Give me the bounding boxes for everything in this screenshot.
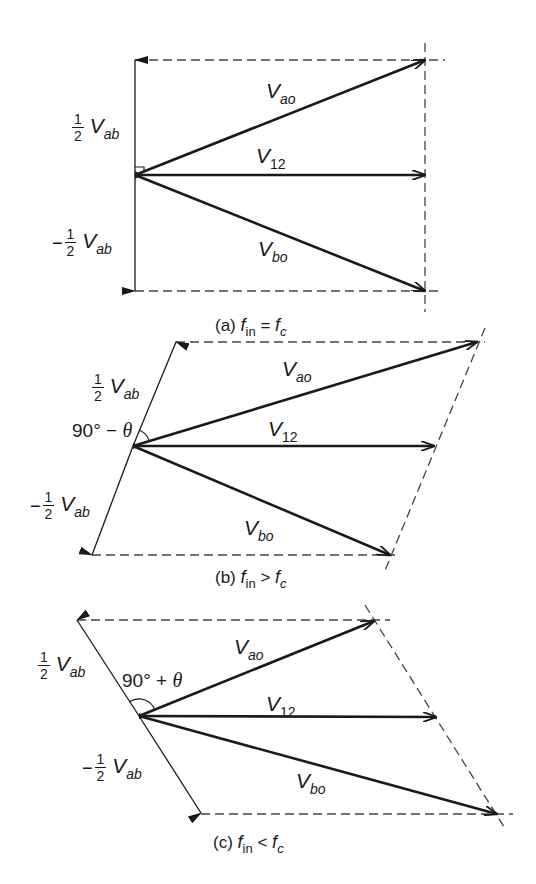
theta-symbol: θ xyxy=(172,669,182,691)
symbol-v: V xyxy=(266,692,280,715)
fraction-numerator: 1 xyxy=(72,112,84,128)
caption-rhs-sub: c xyxy=(280,324,287,339)
symbol-v: V xyxy=(90,114,104,137)
symbol-v: V xyxy=(256,144,270,167)
subscript: bo xyxy=(258,528,274,544)
fraction-denominator: 2 xyxy=(74,128,82,143)
fraction-denominator: 2 xyxy=(45,506,53,521)
half-vab-vector xyxy=(133,342,176,446)
fraction-numerator: 1 xyxy=(92,372,104,388)
neg-half-vab-vector xyxy=(92,446,133,555)
angle-arc-icon xyxy=(139,430,149,441)
angle-text: 90° + xyxy=(122,670,172,691)
fraction-denominator: 2 xyxy=(67,243,75,258)
vbo-vector xyxy=(135,175,425,291)
subscript: ao xyxy=(248,647,264,663)
angle-label-b: 90° − θ xyxy=(72,420,132,440)
fraction-numerator: 1 xyxy=(38,650,50,666)
label-vao-b: Vao xyxy=(282,358,312,384)
label-half-vab-a: 12 Vab xyxy=(72,112,119,143)
fraction-denominator: 2 xyxy=(40,666,48,681)
subscript: 12 xyxy=(270,156,286,172)
label-v12-b: V12 xyxy=(268,418,298,444)
caption-prefix: (b) xyxy=(215,568,236,587)
fraction-numerator: 1 xyxy=(65,227,77,243)
angle-text: 90° − xyxy=(72,420,122,441)
caption-lhs-sub: in xyxy=(246,324,256,339)
fraction-denominator: 2 xyxy=(94,388,102,403)
subscript: 12 xyxy=(282,429,298,445)
fraction-numerator: 1 xyxy=(95,752,107,768)
label-vbo-c: Vbo xyxy=(296,770,326,796)
caption-lhs-sub: in xyxy=(243,841,253,856)
label-vao-c: Vao xyxy=(234,636,264,662)
label-neg-half-vab-c: − 12 Vab xyxy=(82,752,142,783)
subscript: bo xyxy=(272,249,288,265)
label-vbo-a: Vbo xyxy=(258,238,288,264)
fraction-numerator: 1 xyxy=(43,490,55,506)
label-neg-half-vab-b: − 12 Vab xyxy=(30,490,90,521)
label-half-vab-c: 12 Vab xyxy=(38,650,85,681)
subscript: ab xyxy=(96,241,112,257)
caption-rhs-sub: c xyxy=(280,576,287,591)
symbol-v: V xyxy=(60,492,74,515)
symbol-v: V xyxy=(266,79,280,102)
caption-operator: = xyxy=(260,316,270,335)
caption-operator: < xyxy=(257,833,267,852)
symbol-v: V xyxy=(110,374,124,397)
minus-sign: − xyxy=(30,497,41,515)
symbol-v: V xyxy=(268,417,282,440)
minus-sign: − xyxy=(82,759,93,777)
subscript: ab xyxy=(124,386,140,402)
subscript: ab xyxy=(74,504,90,520)
caption-prefix: (c) xyxy=(213,833,233,852)
subscript: bo xyxy=(310,781,326,797)
caption-prefix: (a) xyxy=(215,316,236,335)
symbol-v: V xyxy=(82,229,96,252)
caption-lhs-sub: in xyxy=(246,576,256,591)
label-vao-a: Vao xyxy=(266,80,296,106)
caption-c: (c) fin < fc xyxy=(213,833,284,855)
caption-operator: > xyxy=(260,568,270,587)
fraction-denominator: 2 xyxy=(97,768,105,783)
subscript: ab xyxy=(104,126,120,142)
subscript: ab xyxy=(70,664,86,680)
subscript: ab xyxy=(126,766,142,782)
label-vbo-b: Vbo xyxy=(244,517,274,543)
caption-a: (a) fin = fc xyxy=(215,316,287,338)
subscript: ao xyxy=(296,369,312,385)
symbol-v: V xyxy=(112,754,126,777)
theta-symbol: θ xyxy=(122,419,132,441)
subscript: 12 xyxy=(280,704,296,720)
label-v12-a: V12 xyxy=(256,145,286,171)
caption-b: (b) fin > fc xyxy=(215,568,287,590)
symbol-v: V xyxy=(234,635,248,658)
label-neg-half-vab-a: − 12 Vab xyxy=(52,227,112,258)
subscript: ao xyxy=(280,91,296,107)
symbol-v: V xyxy=(56,652,70,675)
symbol-v: V xyxy=(296,769,310,792)
symbol-v: V xyxy=(258,237,272,260)
symbol-v: V xyxy=(244,516,258,539)
angle-label-c: 90° + θ xyxy=(122,670,182,690)
caption-rhs-sub: c xyxy=(277,841,284,856)
label-half-vab-b: 12 Vab xyxy=(92,372,139,403)
minus-sign: − xyxy=(52,234,63,252)
label-v12-c: V12 xyxy=(266,693,296,719)
symbol-v: V xyxy=(282,357,296,380)
